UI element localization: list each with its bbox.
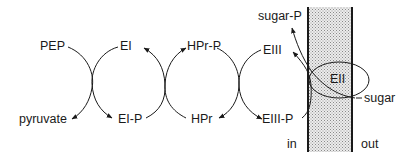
arrow-pep-to-pyruvate	[68, 47, 93, 119]
label-eiii-p: EIII-P	[262, 113, 293, 126]
arrow-eip-to-ei	[144, 48, 165, 118]
label-hpr-p: HPr-P	[187, 40, 221, 53]
arrow-hpr-to-hprp	[165, 48, 186, 118]
reaction-ei-hpr	[144, 48, 186, 118]
reaction-pep-ei	[68, 47, 118, 119]
arrow-eiii-to-eiiip	[239, 50, 262, 119]
label-in: in	[287, 138, 297, 151]
label-hpr: HPr	[191, 113, 213, 126]
label-pep: PEP	[40, 40, 65, 53]
label-sugar: sugar	[364, 92, 395, 105]
arrow-ei-to-eip	[92, 47, 118, 118]
label-out: out	[361, 138, 378, 151]
pts-phosphorelay-diagram	[0, 0, 413, 159]
reaction-hpr-eiii	[217, 48, 262, 119]
label-ei: EI	[120, 40, 132, 53]
label-pyruvate: pyruvate	[19, 113, 67, 126]
label-sugar-p: sugar-P	[258, 10, 302, 23]
label-ei-p: EI-P	[118, 113, 142, 126]
label-eii: EII	[330, 73, 345, 86]
arrow-hprp-to-hpr	[217, 48, 239, 118]
label-eiii: EIII	[263, 44, 282, 57]
